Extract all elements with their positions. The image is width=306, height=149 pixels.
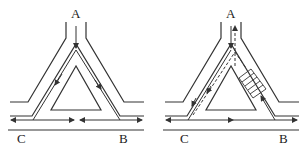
right-diagram: A C B [163,6,299,146]
label-c: C [17,131,26,146]
label-b: B [119,131,128,146]
road-edge [86,22,144,102]
flow-line [262,98,275,120]
left-diagram: A C B [8,6,144,146]
road-edge [165,22,221,102]
road-edge [10,22,66,102]
road-edge [165,44,299,116]
flow-line [193,52,235,115]
label-a: A [71,6,81,21]
label-a: A [226,6,236,21]
label-b: B [279,131,288,146]
diagram-canvas: A C B [0,0,306,149]
road-edge [10,44,144,116]
road-edge [241,22,299,102]
label-c: C [180,131,189,146]
